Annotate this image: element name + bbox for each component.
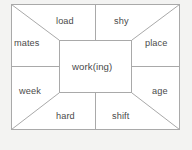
diagram-canvas: load shy mates place week age hard shift… xyxy=(0,0,192,150)
center-word-label: work(ing) xyxy=(72,61,112,72)
word-web-diagram xyxy=(0,0,192,150)
cell-label-right-bottom: age xyxy=(152,86,168,96)
cell-label-top-right: shy xyxy=(114,16,129,26)
cell-label-right-top: place xyxy=(145,38,167,48)
cell-label-bottom-left: hard xyxy=(56,111,75,121)
cell-label-left-top: mates xyxy=(14,38,40,48)
cell-label-top-left: load xyxy=(56,16,74,26)
cell-label-bottom-right: shift xyxy=(112,111,129,121)
cell-label-left-bottom: week xyxy=(19,86,41,96)
